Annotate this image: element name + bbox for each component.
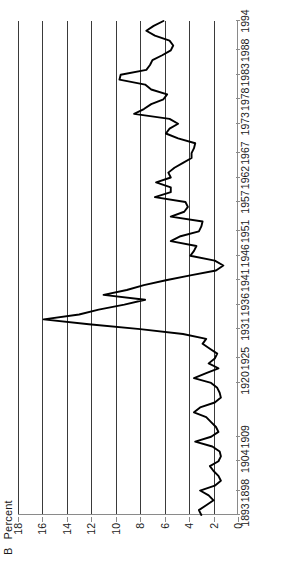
rotated-chart-container: BPercent 024681012141618 189318981904190… bbox=[0, 0, 301, 561]
x-tick-mark-1904 bbox=[236, 460, 240, 461]
x-tick-label-1978: 1978 bbox=[240, 88, 251, 111]
y-tick-label-18: 18 bbox=[13, 523, 24, 535]
y-tick-label-16: 16 bbox=[37, 523, 48, 535]
x-tick-mark-1920 bbox=[236, 382, 240, 383]
x-tick-mark-1983 bbox=[236, 74, 240, 75]
x-tick-label-1936: 1936 bbox=[240, 293, 251, 316]
x-tick-mark-1898 bbox=[236, 490, 240, 491]
x-tick-mark-1988 bbox=[236, 49, 240, 50]
x-tick-label-1920: 1920 bbox=[240, 371, 251, 394]
x-tick-mark-1967 bbox=[236, 152, 240, 153]
y-tick-mark-10 bbox=[116, 517, 117, 522]
x-axis-tick-labels: 1893189819041909192019251931193619411946… bbox=[240, 21, 298, 515]
y-tick-mark-16 bbox=[42, 517, 43, 522]
x-tick-mark-1931 bbox=[236, 328, 240, 329]
x-tick-label-1904: 1904 bbox=[240, 450, 251, 473]
y-tick-label-2: 2 bbox=[208, 523, 219, 529]
x-tick-label-1909: 1909 bbox=[240, 425, 251, 448]
y-tick-label-4: 4 bbox=[184, 523, 195, 529]
chart-frame: BPercent 024681012141618 189318981904190… bbox=[0, 0, 301, 561]
x-tick-mark-1941 bbox=[236, 279, 240, 280]
x-tick-mark-1946 bbox=[236, 255, 240, 256]
series-line-chart bbox=[18, 21, 238, 515]
y-tick-label-6: 6 bbox=[159, 523, 170, 529]
x-tick-mark-1936 bbox=[236, 304, 240, 305]
panel-letter: B bbox=[2, 547, 14, 555]
x-tick-mark-1951 bbox=[236, 230, 240, 231]
plot-area bbox=[18, 21, 238, 515]
x-tick-mark-1994 bbox=[236, 20, 240, 21]
y-tick-mark-4 bbox=[189, 517, 190, 522]
x-tick-mark-1957 bbox=[236, 201, 240, 202]
y-tick-mark-2 bbox=[214, 517, 215, 522]
x-tick-label-1893: 1893 bbox=[240, 503, 251, 526]
x-tick-label-1951: 1951 bbox=[240, 220, 251, 243]
x-tick-label-1925: 1925 bbox=[240, 347, 251, 370]
x-tick-mark-1978 bbox=[236, 98, 240, 99]
x-tick-mark-1962 bbox=[236, 177, 240, 178]
y-tick-mark-6 bbox=[165, 517, 166, 522]
y-tick-label-10: 10 bbox=[111, 523, 122, 535]
x-tick-mark-1893 bbox=[236, 514, 240, 515]
y-tick-mark-18 bbox=[18, 517, 19, 522]
y-tick-label-8: 8 bbox=[135, 523, 146, 529]
y-tick-label-12: 12 bbox=[86, 523, 97, 535]
y-tick-mark-14 bbox=[67, 517, 68, 522]
y-tick-mark-8 bbox=[140, 517, 141, 522]
series-polyline-percent bbox=[44, 21, 224, 515]
x-tick-label-1931: 1931 bbox=[240, 317, 251, 340]
x-tick-label-1994: 1994 bbox=[240, 9, 251, 32]
x-tick-label-1957: 1957 bbox=[240, 190, 251, 213]
x-tick-label-1898: 1898 bbox=[240, 479, 251, 502]
x-tick-mark-1925 bbox=[236, 358, 240, 359]
x-tick-label-1946: 1946 bbox=[240, 244, 251, 267]
x-tick-label-1941: 1941 bbox=[240, 269, 251, 292]
y-tick-label-14: 14 bbox=[62, 523, 73, 535]
x-tick-label-1973: 1973 bbox=[240, 112, 251, 135]
x-tick-label-1983: 1983 bbox=[240, 63, 251, 86]
x-tick-label-1967: 1967 bbox=[240, 141, 251, 164]
chart-page: BPercent 024681012141618 189318981904190… bbox=[0, 0, 301, 561]
x-tick-label-1962: 1962 bbox=[240, 166, 251, 189]
y-tick-mark-12 bbox=[91, 517, 92, 522]
x-tick-mark-1973 bbox=[236, 123, 240, 124]
y-axis-tick-labels: 024681012141618 bbox=[18, 517, 238, 561]
x-tick-label-1988: 1988 bbox=[240, 39, 251, 62]
x-tick-mark-1909 bbox=[236, 436, 240, 437]
